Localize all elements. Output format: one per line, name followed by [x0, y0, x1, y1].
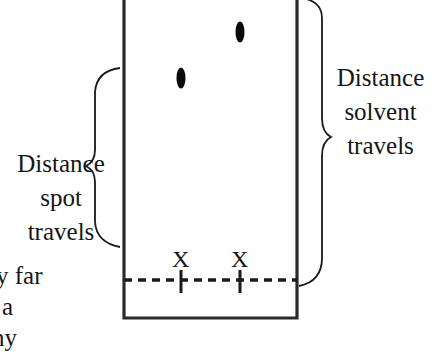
- label-line: travels: [322, 129, 439, 163]
- text-line: y far: [0, 260, 43, 291]
- distance-solvent-travels-label: Distance solvent travels: [322, 61, 439, 163]
- origin-mark-right: X: [231, 247, 248, 271]
- label-line: spot: [0, 181, 122, 215]
- label-line: Distance: [322, 61, 439, 95]
- tlc-plate-outline: [124, 0, 297, 318]
- label-line: solvent: [322, 95, 439, 129]
- text-line: ny: [0, 322, 43, 353]
- distance-spot-travels-label: Distance spot travels: [0, 147, 122, 249]
- label-line: Distance: [0, 147, 122, 181]
- spot-left: [177, 68, 186, 89]
- origin-mark-left: X: [172, 247, 189, 271]
- cropped-body-text: y far a ny: [0, 260, 43, 353]
- label-line: travels: [0, 215, 122, 249]
- text-line: a: [2, 291, 43, 322]
- spot-right: [236, 22, 245, 43]
